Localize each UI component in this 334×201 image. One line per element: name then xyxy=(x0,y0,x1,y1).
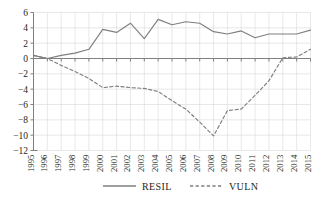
y-axis-tick-label: 6 xyxy=(23,8,28,18)
x-axis-tick-label: 2008 xyxy=(206,155,216,173)
y-axis-tick-label: 2 xyxy=(23,39,28,49)
x-axis-tick-label: 2012 xyxy=(261,155,271,173)
chart-legend: RESILVULN xyxy=(103,181,258,192)
legend-label-resil: RESIL xyxy=(142,181,172,192)
chart-canvas: 6420−2−4−6−8−10−12 199519961997199819992… xyxy=(0,0,334,201)
x-axis-tick-label: 1997 xyxy=(53,154,63,172)
x-axis-tick-label: 2013 xyxy=(275,155,285,173)
x-axis-tick-label: 2011 xyxy=(247,155,257,172)
legend-label-vuln: VULN xyxy=(229,181,258,192)
x-axis-tick-label: 2014 xyxy=(289,154,299,172)
x-axis-tick-label: 1996 xyxy=(39,154,49,172)
x-axis-tick-labels: 1995199619971998199920002001200220032004… xyxy=(26,154,313,172)
x-axis-tick-label: 2000 xyxy=(95,155,105,173)
x-axis-tick-label: 2006 xyxy=(178,154,188,172)
x-axis-tick-label: 2010 xyxy=(233,155,243,173)
x-axis-tick-label: 2005 xyxy=(164,155,174,173)
x-axis-tick-label: 2001 xyxy=(109,155,119,173)
y-axis-tick-label: −4 xyxy=(18,85,28,95)
y-axis-tick-label: −2 xyxy=(18,69,28,79)
y-axis-tick-label: 0 xyxy=(23,54,28,64)
line-chart: 6420−2−4−6−8−10−12 199519961997199819992… xyxy=(0,0,334,201)
x-axis-tick-label: 2003 xyxy=(136,155,146,173)
y-axis-tick-labels: 6420−2−4−6−8−10−12 xyxy=(13,8,28,156)
x-axis-tick-label: 2004 xyxy=(150,154,160,172)
y-axis-tick-label: 4 xyxy=(23,23,28,33)
x-axis-tick-label: 2002 xyxy=(122,155,132,173)
y-axis-tick-label: −6 xyxy=(18,100,28,110)
x-axis-tick-label: 1995 xyxy=(26,155,36,173)
x-axis-tick-label: 1999 xyxy=(81,155,91,173)
x-axis-tick-label: 2009 xyxy=(219,155,229,173)
x-axis-tick-label: 1998 xyxy=(67,155,77,173)
y-axis-tick-label: −10 xyxy=(13,131,28,141)
y-axis-tick-label: −12 xyxy=(13,146,28,156)
x-axis-tick-label: 2015 xyxy=(303,155,313,173)
x-axis-tick-label: 2007 xyxy=(192,154,202,172)
y-axis-tick-label: −8 xyxy=(18,115,28,125)
